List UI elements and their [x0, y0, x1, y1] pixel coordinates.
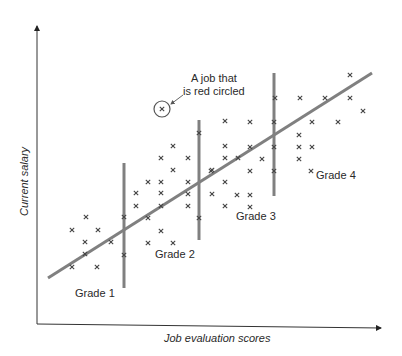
annotation-line2: is red circled	[183, 85, 245, 98]
data-point-x-marker	[159, 191, 163, 195]
data-point-x-marker	[159, 156, 163, 160]
data-point-x-marker	[297, 133, 301, 137]
data-point-x-marker	[186, 180, 190, 184]
data-point-x-marker	[186, 192, 190, 196]
data-point-x-marker	[348, 73, 352, 77]
data-point-x-marker	[248, 193, 252, 197]
data-point-x-marker	[336, 120, 340, 124]
data-point-x-marker	[146, 180, 150, 184]
data-point-x-marker	[171, 144, 175, 148]
data-point-x-marker	[323, 96, 327, 100]
data-point-x-marker	[248, 169, 252, 173]
data-point-x-marker	[297, 157, 301, 161]
x-axis-label: Job evaluation scores	[164, 332, 270, 344]
grade-1-label: Grade 1	[75, 287, 115, 300]
data-point-x-marker	[260, 157, 264, 161]
data-point-x-marker	[223, 180, 227, 184]
grade-3-label: Grade 3	[236, 210, 276, 223]
data-point-x-marker	[248, 120, 252, 124]
data-point-x-marker	[235, 193, 239, 197]
data-point-x-marker	[310, 120, 314, 124]
data-point-x-marker	[171, 241, 175, 245]
data-point-x-marker	[134, 191, 138, 195]
data-point-x-marker	[210, 192, 214, 196]
grade-4-label: Grade 4	[316, 169, 356, 182]
grade-2-label: Grade 2	[155, 248, 195, 261]
data-point-x-marker	[361, 109, 365, 113]
data-point-x-marker	[70, 265, 74, 269]
data-point-x-marker	[223, 119, 227, 123]
data-point-x-marker	[309, 169, 313, 173]
annotation-arrow	[171, 95, 183, 104]
data-point-x-marker	[160, 107, 164, 111]
annotation-label: A job that is red circled	[183, 72, 245, 98]
data-point-x-marker	[109, 240, 113, 244]
data-point-x-marker	[95, 265, 99, 269]
data-point-x-marker	[298, 96, 302, 100]
x-axis	[37, 324, 381, 328]
data-point-x-marker	[348, 96, 352, 100]
data-point-x-marker	[186, 156, 190, 160]
data-point-x-marker	[223, 204, 227, 208]
data-point-x-marker	[297, 145, 301, 149]
annotation-circle	[154, 95, 183, 117]
data-point-x-marker	[223, 144, 227, 148]
y-axis-label: Current salary	[18, 147, 30, 216]
data-point-x-marker	[186, 204, 190, 208]
data-point-x-marker	[159, 180, 163, 184]
data-point-x-marker	[171, 168, 175, 172]
data-point-x-marker	[159, 229, 163, 233]
data-point-x-marker	[310, 145, 314, 149]
data-point-x-marker	[248, 205, 252, 209]
annotation-line1: A job that	[183, 72, 245, 85]
data-point-x-marker	[84, 215, 88, 219]
data-point-x-marker	[70, 228, 74, 232]
data-point-x-marker	[146, 241, 150, 245]
data-point-x-marker	[134, 204, 138, 208]
data-point-x-marker	[96, 228, 100, 232]
data-point-x-marker	[223, 156, 227, 160]
data-point-x-marker	[83, 240, 87, 244]
